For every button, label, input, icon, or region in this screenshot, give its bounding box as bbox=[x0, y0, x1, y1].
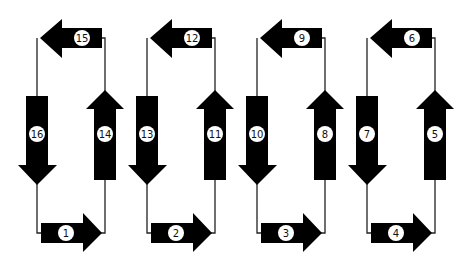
step-number: 6 bbox=[409, 33, 415, 44]
right-arrow: 1 bbox=[41, 213, 102, 252]
up-arrow: 11 bbox=[196, 90, 234, 180]
step-number: 4 bbox=[393, 228, 399, 239]
step-number: 1 bbox=[63, 228, 69, 239]
down-arrow: 16 bbox=[18, 96, 57, 185]
down-arrow: 10 bbox=[238, 96, 277, 185]
loop-column-2: 12 13 11 2 bbox=[128, 19, 234, 252]
step-number: 11 bbox=[209, 129, 222, 140]
left-arrow-icon bbox=[370, 19, 432, 58]
step-number: 14 bbox=[99, 129, 112, 140]
up-arrow: 5 bbox=[416, 90, 454, 180]
up-arrow: 8 bbox=[306, 90, 344, 180]
right-arrow: 4 bbox=[371, 213, 432, 252]
left-arrow: 9 bbox=[260, 19, 322, 58]
step-number: 2 bbox=[173, 228, 179, 239]
step-number: 13 bbox=[141, 129, 154, 140]
step-number: 15 bbox=[76, 33, 89, 44]
left-arrow: 15 bbox=[40, 19, 102, 58]
loop-column-4: 6 7 5 4 bbox=[348, 19, 454, 252]
down-arrow: 7 bbox=[348, 96, 387, 185]
left-arrow: 6 bbox=[370, 19, 432, 58]
right-arrow: 2 bbox=[151, 213, 212, 252]
loop-column-1: 15 16 14 1 bbox=[18, 19, 124, 252]
loop-column-3: 9 10 8 3 bbox=[238, 19, 344, 252]
up-arrow: 14 bbox=[86, 90, 124, 180]
step-number: 8 bbox=[322, 129, 328, 140]
arrow-sequence-diagram: 15 16 14 1 12 13 bbox=[0, 0, 471, 267]
left-arrow-icon bbox=[40, 19, 102, 58]
left-arrow: 12 bbox=[150, 19, 212, 58]
step-number: 7 bbox=[364, 129, 370, 140]
right-arrow: 3 bbox=[261, 213, 322, 252]
step-number: 9 bbox=[299, 33, 305, 44]
step-number: 5 bbox=[432, 129, 438, 140]
step-number: 10 bbox=[251, 129, 264, 140]
left-arrow-icon bbox=[260, 19, 322, 58]
down-arrow: 13 bbox=[128, 96, 167, 185]
step-number: 3 bbox=[283, 228, 289, 239]
step-number: 16 bbox=[31, 129, 44, 140]
left-arrow-icon bbox=[150, 19, 212, 58]
step-number: 12 bbox=[186, 33, 199, 44]
